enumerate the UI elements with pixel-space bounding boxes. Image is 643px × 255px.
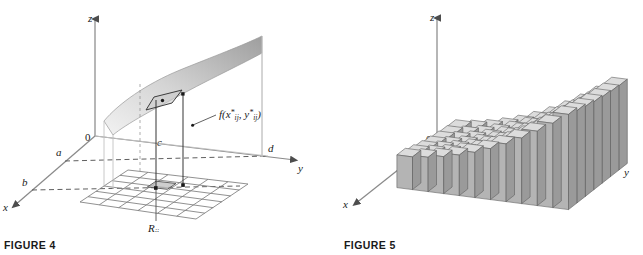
figure-4-caption: FIGURE 4	[4, 239, 56, 251]
figure-5-panel: z 0 y x FIGURE 5	[321, 0, 643, 255]
figure5-y-label: y	[623, 166, 629, 178]
figure4-surface-label-leader-dot	[191, 124, 194, 127]
figure4-domain-grid	[80, 170, 248, 219]
figure-4-graphic: z 0 y x a b d c	[0, 0, 321, 232]
figure4-base-marker-right	[181, 183, 185, 187]
figure-4-panel: z 0 y x a b d c	[0, 0, 321, 255]
figure5-bar-solid	[397, 77, 627, 209]
figure4-label-c: c	[157, 136, 162, 148]
figure4-x-axis	[14, 136, 95, 206]
figure-5-caption: FIGURE 5	[344, 239, 396, 251]
figure4-dash-a-to-d	[65, 156, 268, 161]
figure4-Rij-label: Rij	[147, 222, 159, 232]
figure4-surface-label-leader	[193, 115, 216, 125]
figure4-base-marker-left	[154, 186, 158, 190]
figure4-patch-sample-point	[161, 99, 164, 102]
figure4-surface-left-edge	[95, 136, 268, 156]
figure4-x-label: x	[2, 201, 8, 213]
figure4-origin-label: 0	[85, 131, 91, 143]
figure-5-graphic: z 0 y x	[321, 0, 643, 232]
figure5-z-label: z	[429, 11, 435, 23]
figure4-label-d: d	[268, 142, 274, 154]
figure4-y-label: y	[297, 162, 303, 174]
figure4-surface-function-label: f(x*ij, y*ij)	[219, 108, 261, 123]
figure4-z-label: z	[87, 12, 93, 24]
figures-row: z 0 y x a b d c	[0, 0, 643, 255]
figure4-label-a: a	[56, 146, 62, 158]
figure4-label-b: b	[22, 176, 28, 188]
figure4-top-marker-right	[181, 92, 184, 95]
figure5-x-label: x	[342, 198, 348, 210]
